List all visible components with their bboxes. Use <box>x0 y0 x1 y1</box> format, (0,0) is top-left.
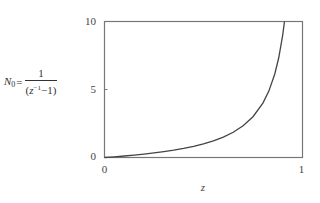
y-tick-label-10: 10 <box>85 15 97 27</box>
x-tick-label-1: 1 <box>299 163 305 175</box>
y-tick-label-0: 0 <box>91 150 97 162</box>
chart: 10 5 0 0 1 z <box>0 0 320 203</box>
formula-denominator: (z−1−1) <box>25 81 58 96</box>
formula-equals: = <box>16 76 22 88</box>
formula-fraction: 1 (z−1−1) <box>25 68 58 96</box>
x-axis-label: z <box>200 181 206 193</box>
plot-frame <box>105 22 303 158</box>
data-curve <box>105 22 285 158</box>
x-tick-label-0: 0 <box>102 163 108 175</box>
y-tick-label-5: 5 <box>91 83 97 95</box>
formula-numerator: 1 <box>36 68 46 80</box>
y-axis-label-formula: N0 = 1 (z−1−1) <box>4 68 57 96</box>
formula-lhs: N0 <box>4 75 15 89</box>
